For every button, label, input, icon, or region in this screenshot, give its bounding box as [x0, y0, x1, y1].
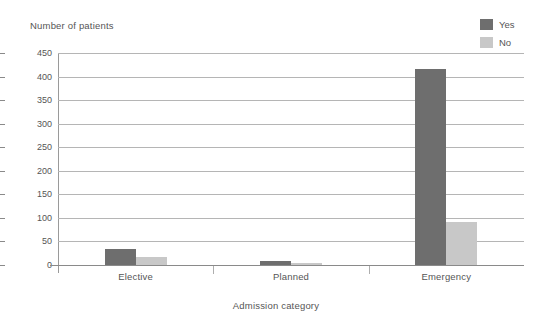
x-axis-title: Admission category [0, 300, 552, 311]
y-tick-mark [0, 77, 5, 78]
gridline [58, 53, 524, 54]
y-tick-label: 300 [6, 119, 52, 129]
bar-planned-no [291, 263, 322, 265]
plot-area [58, 53, 524, 265]
legend-label-no: No [499, 37, 511, 48]
legend-item-yes: Yes [480, 17, 538, 31]
gridline [58, 100, 524, 101]
chart-legend: Yes No [480, 17, 538, 53]
y-tick-label: 200 [6, 166, 52, 176]
x-tick-label-planned: Planned [241, 271, 341, 282]
bar-planned-yes [260, 261, 291, 265]
gridline [58, 147, 524, 148]
y-tick-mark [0, 147, 5, 148]
y-tick-mark [0, 218, 5, 219]
y-tick-label: 250 [6, 142, 52, 152]
bar-elective-no [136, 257, 167, 265]
y-axis-line [58, 53, 59, 273]
gridline [58, 124, 524, 125]
legend-swatch-yes [480, 19, 493, 30]
x-tick-label-elective: Elective [86, 271, 186, 282]
x-axis-separator-tick [213, 266, 214, 274]
legend-label-yes: Yes [499, 19, 515, 30]
gridline [58, 77, 524, 78]
x-axis-separator-tick [369, 266, 370, 274]
gridline [58, 218, 524, 219]
y-tick-label: 50 [6, 236, 52, 246]
gridline [58, 194, 524, 195]
y-axis-tick-labels: 050100150200250300350400450 [0, 53, 52, 265]
y-tick-label: 0 [6, 260, 52, 270]
bar-elective-yes [105, 249, 136, 265]
y-tick-mark [0, 241, 5, 242]
y-axis-title: Number of patients [30, 20, 114, 31]
y-tick-label: 150 [6, 189, 52, 199]
x-axis-line [50, 265, 524, 266]
y-tick-mark [0, 53, 5, 54]
y-tick-mark [0, 194, 5, 195]
legend-swatch-no [480, 37, 493, 48]
y-tick-label: 450 [6, 48, 52, 58]
bar-emergency-yes [415, 69, 446, 265]
y-tick-mark [0, 100, 5, 101]
legend-item-no: No [480, 35, 538, 49]
gridline [58, 171, 524, 172]
x-tick-label-emergency: Emergency [396, 271, 496, 282]
y-tick-label: 100 [6, 213, 52, 223]
bar-emergency-no [446, 222, 477, 265]
bar-chart: Number of patients Yes No 05010015020025… [0, 0, 552, 327]
y-tick-mark [0, 171, 5, 172]
y-tick-label: 350 [6, 95, 52, 105]
y-tick-mark [0, 265, 5, 266]
y-tick-label: 400 [6, 72, 52, 82]
y-tick-mark [0, 124, 5, 125]
